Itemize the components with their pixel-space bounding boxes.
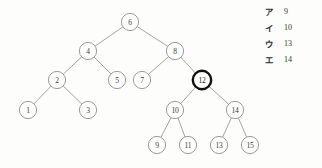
tree-edge-2-1 <box>34 86 51 104</box>
legend-row: ア9 <box>262 4 318 20</box>
tree-node-6[interactable]: 6 <box>121 13 138 30</box>
tree-edge-4-2 <box>63 57 81 74</box>
legend-key: ウ <box>262 36 276 52</box>
legend-row: イ10 <box>262 20 318 36</box>
tree-edge-8-12 <box>181 57 196 73</box>
node-label: 4 <box>86 47 90 56</box>
node-layer: 648257121310149111315 <box>19 13 258 153</box>
tree-edge-14-13 <box>223 118 232 137</box>
tree-edge-12-10 <box>181 87 196 104</box>
tree-node-12[interactable]: 12 <box>193 71 211 89</box>
tree-node-2[interactable]: 2 <box>48 71 65 88</box>
legend-value: 14 <box>284 52 302 68</box>
tree-node-4[interactable]: 4 <box>79 42 96 59</box>
tree-edge-12-14 <box>209 86 229 104</box>
tree-edge-8-7 <box>148 57 168 75</box>
tree-edge-14-15 <box>238 118 246 137</box>
tree-node-1[interactable]: 1 <box>19 101 36 118</box>
node-label: 3 <box>86 106 90 115</box>
node-label: 14 <box>231 106 239 115</box>
node-label: 11 <box>185 141 192 150</box>
node-label: 10 <box>171 106 179 115</box>
tree-edge-10-11 <box>178 118 185 137</box>
node-label: 13 <box>215 141 223 150</box>
tree-node-8[interactable]: 8 <box>166 42 183 59</box>
tree-edge-6-4 <box>95 27 123 46</box>
tree-node-10[interactable]: 10 <box>166 101 183 118</box>
tree-node-11[interactable]: 11 <box>179 136 196 153</box>
tree-diagram: 648257121310149111315 ア9イ10ウ13エ14 <box>0 0 322 168</box>
legend-value: 9 <box>284 4 302 20</box>
node-label: 9 <box>155 141 159 150</box>
tree-node-14[interactable]: 14 <box>226 101 243 118</box>
tree-node-5[interactable]: 5 <box>108 71 125 88</box>
tree-node-9[interactable]: 9 <box>148 136 165 153</box>
tree-node-13[interactable]: 13 <box>210 136 227 153</box>
legend-key: ア <box>262 4 276 20</box>
answer-legend: ア9イ10ウ13エ14 <box>262 4 318 68</box>
tree-node-3[interactable]: 3 <box>79 101 96 118</box>
legend-value: 10 <box>284 20 302 36</box>
tree-edge-6-8 <box>137 27 168 47</box>
legend-value: 13 <box>284 36 302 52</box>
node-label: 8 <box>173 47 177 56</box>
legend-row: エ14 <box>262 52 318 68</box>
legend-row: ウ13 <box>262 36 318 52</box>
legend-key: イ <box>262 20 276 36</box>
legend-key: エ <box>262 52 276 68</box>
tree-node-15[interactable]: 15 <box>241 136 258 153</box>
node-label: 15 <box>246 141 254 150</box>
node-label: 1 <box>26 106 30 115</box>
node-label: 5 <box>115 76 119 85</box>
tree-node-7[interactable]: 7 <box>133 71 150 88</box>
tree-edge-2-3 <box>63 86 82 104</box>
tree-edge-4-5 <box>94 57 111 74</box>
node-label: 2 <box>55 76 59 85</box>
node-label: 12 <box>198 76 206 85</box>
node-label: 6 <box>128 18 132 27</box>
tree-edge-10-9 <box>161 118 171 138</box>
node-label: 7 <box>140 76 144 85</box>
